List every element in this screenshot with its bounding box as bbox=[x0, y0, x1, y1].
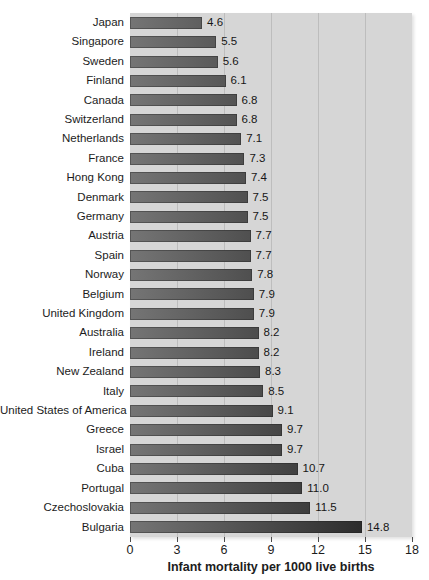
value-label: 9.7 bbox=[287, 424, 303, 436]
bar-track: 7.8 bbox=[130, 265, 412, 284]
bar-row: Hong Kong 7.4 bbox=[0, 168, 429, 187]
country-label: Norway bbox=[0, 269, 130, 281]
x-axis-tick bbox=[177, 537, 178, 542]
bar-track: 11.5 bbox=[130, 498, 412, 517]
country-label: Germany bbox=[0, 211, 130, 223]
country-label: United Kingdom bbox=[0, 308, 130, 320]
bar-track: 9.7 bbox=[130, 440, 412, 459]
bar-row: Portugal 11.0 bbox=[0, 479, 429, 498]
bar-track: 6.8 bbox=[130, 110, 412, 129]
bar-row: United States of America 9.1 bbox=[0, 401, 429, 420]
x-axis-tick bbox=[412, 537, 413, 542]
value-label: 10.7 bbox=[303, 463, 325, 475]
bar-row: Finland 6.1 bbox=[0, 71, 429, 90]
country-label: Switzerland bbox=[0, 114, 130, 126]
bar bbox=[130, 36, 216, 48]
bar-row: Canada 6.8 bbox=[0, 91, 429, 110]
bar-track: 6.8 bbox=[130, 91, 412, 110]
x-axis-title: Infant mortality per 1000 live births bbox=[130, 560, 412, 575]
bar-row: Czechoslovakia 11.5 bbox=[0, 498, 429, 517]
country-label: Australia bbox=[0, 327, 130, 339]
bar bbox=[130, 424, 282, 436]
bar bbox=[130, 482, 302, 494]
x-axis-tick-label: 12 bbox=[311, 544, 325, 557]
bar-track: 7.9 bbox=[130, 304, 412, 323]
bar bbox=[130, 444, 282, 456]
bar-track: 8.2 bbox=[130, 324, 412, 343]
bar bbox=[130, 114, 237, 126]
bar-row: Netherlands 7.1 bbox=[0, 129, 429, 148]
value-label: 8.3 bbox=[265, 366, 281, 378]
x-axis-tick-label: 6 bbox=[221, 544, 228, 557]
value-label: 11.0 bbox=[307, 483, 329, 495]
x-axis-tick bbox=[130, 537, 131, 542]
x-axis-tick bbox=[271, 537, 272, 542]
country-label: Japan bbox=[0, 17, 130, 29]
value-label: 7.7 bbox=[256, 250, 272, 262]
country-label: Bulgaria bbox=[0, 522, 130, 534]
country-label: Denmark bbox=[0, 192, 130, 204]
bar-row: France 7.3 bbox=[0, 149, 429, 168]
bar-row: Ireland 8.2 bbox=[0, 343, 429, 362]
bar bbox=[130, 521, 362, 533]
value-label: 7.3 bbox=[249, 153, 265, 165]
bar bbox=[130, 172, 246, 184]
bar-track: 7.9 bbox=[130, 285, 412, 304]
bar bbox=[130, 230, 251, 242]
country-label: Finland bbox=[0, 75, 130, 87]
x-axis-tick bbox=[365, 537, 366, 542]
bar-row: Japan 4.6 bbox=[0, 13, 429, 32]
bar-track: 11.0 bbox=[130, 479, 412, 498]
bar-row: New Zealand 8.3 bbox=[0, 362, 429, 381]
bar bbox=[130, 153, 244, 165]
value-label: 8.2 bbox=[264, 327, 280, 339]
value-label: 7.1 bbox=[246, 133, 262, 145]
value-label: 6.8 bbox=[242, 95, 258, 107]
x-axis-tick bbox=[224, 537, 225, 542]
bar bbox=[130, 269, 252, 281]
value-label: 9.7 bbox=[287, 444, 303, 456]
value-label: 6.1 bbox=[231, 75, 247, 87]
bar-track: 7.4 bbox=[130, 168, 412, 187]
bar bbox=[130, 405, 273, 417]
bar-track: 6.1 bbox=[130, 71, 412, 90]
bar-track: 8.2 bbox=[130, 343, 412, 362]
bar-row: Sweden 5.6 bbox=[0, 52, 429, 71]
x-axis-tick bbox=[318, 537, 319, 542]
bar-row: Denmark 7.5 bbox=[0, 188, 429, 207]
bar-track: 10.7 bbox=[130, 459, 412, 478]
bar bbox=[130, 385, 263, 397]
bar-row: Singapore 5.5 bbox=[0, 32, 429, 51]
value-label: 4.6 bbox=[207, 17, 223, 29]
country-label: Italy bbox=[0, 386, 130, 398]
country-label: France bbox=[0, 153, 130, 165]
bar-track: 9.1 bbox=[130, 401, 412, 420]
value-label: 7.4 bbox=[251, 172, 267, 184]
bar-track: 7.5 bbox=[130, 207, 412, 226]
country-label: Israel bbox=[0, 444, 130, 456]
x-axis-tick-label: 18 bbox=[405, 544, 419, 557]
bar bbox=[130, 288, 254, 300]
country-label: United States of America bbox=[0, 405, 130, 417]
bar-row: Israel 9.7 bbox=[0, 440, 429, 459]
bar-row: Australia 8.2 bbox=[0, 324, 429, 343]
bar bbox=[130, 347, 259, 359]
x-axis-tick-label: 15 bbox=[358, 544, 372, 557]
country-label: Austria bbox=[0, 230, 130, 242]
bar bbox=[130, 133, 241, 145]
country-label: Spain bbox=[0, 250, 130, 262]
value-label: 5.5 bbox=[221, 36, 237, 48]
bar bbox=[130, 56, 218, 68]
bar-track: 7.3 bbox=[130, 149, 412, 168]
country-label: Singapore bbox=[0, 36, 130, 48]
value-label: 8.2 bbox=[264, 347, 280, 359]
country-label: Netherlands bbox=[0, 133, 130, 145]
bar-row: Spain 7.7 bbox=[0, 246, 429, 265]
country-label: New Zealand bbox=[0, 366, 130, 378]
bar-track: 7.5 bbox=[130, 188, 412, 207]
bar-row: Belgium 7.9 bbox=[0, 285, 429, 304]
infant-mortality-bar-chart: Japan 4.6 Singapore 5.5 Sweden 5.6 Finla… bbox=[0, 0, 429, 580]
bar-row: Norway 7.8 bbox=[0, 265, 429, 284]
bar-track: 8.3 bbox=[130, 362, 412, 381]
bar-row: Bulgaria 14.8 bbox=[0, 518, 429, 537]
